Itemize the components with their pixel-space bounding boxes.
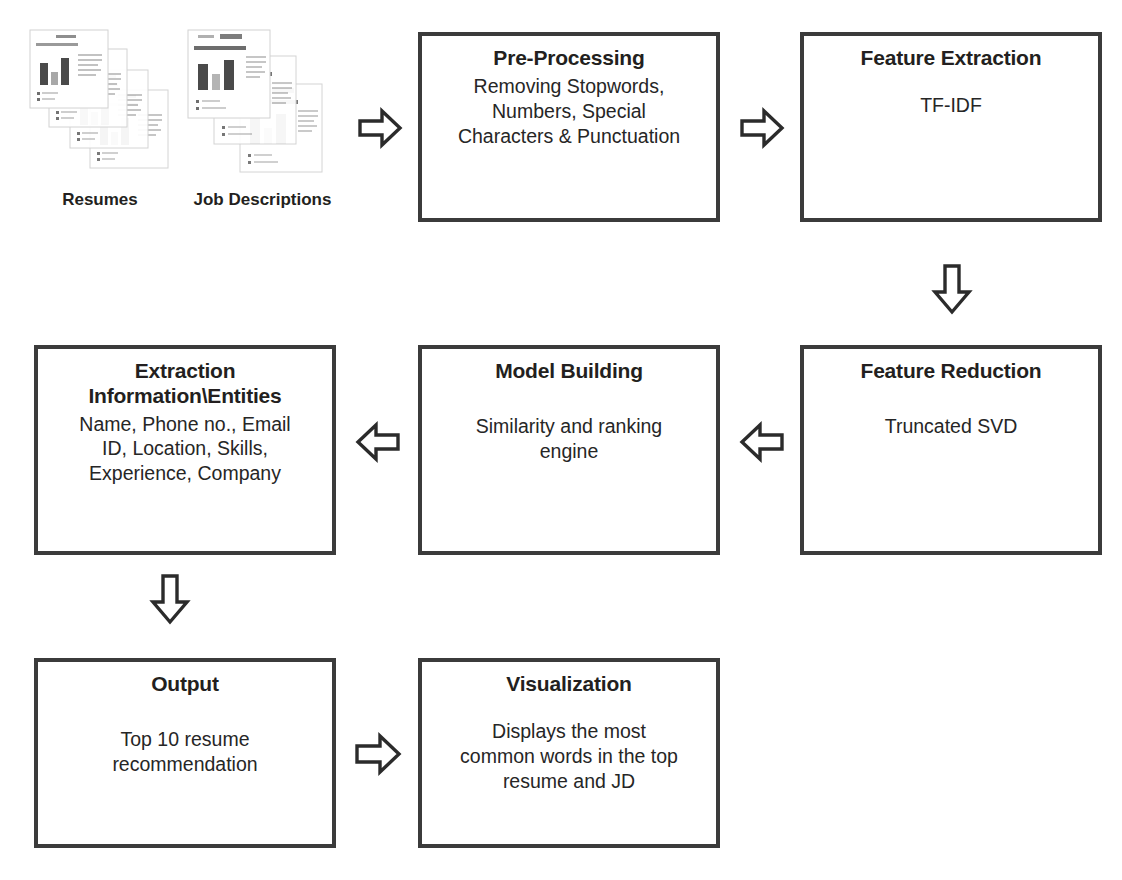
node-title: Visualization bbox=[506, 672, 631, 697]
node-output[interactable]: Output Top 10 resume recommendation bbox=[34, 658, 336, 848]
node-feature-extraction[interactable]: Feature Extraction TF-IDF bbox=[800, 32, 1102, 222]
node-body: Top 10 resume recommendation bbox=[112, 727, 257, 777]
node-body: Removing Stopwords, Numbers, Special Cha… bbox=[458, 74, 680, 149]
source-label-job-descriptions: Job Descriptions bbox=[180, 190, 345, 210]
arrow-right-icon-preprocessing-to-feature-extraction bbox=[738, 104, 786, 152]
document-stack-icon-job-descriptions bbox=[186, 28, 326, 178]
arrow-left-icon-feature-reduction-to-model-building bbox=[736, 418, 788, 466]
arrow-down-icon-extraction-to-output bbox=[146, 572, 194, 628]
node-pre-processing[interactable]: Pre-Processing Removing Stopwords, Numbe… bbox=[418, 32, 720, 222]
node-feature-reduction[interactable]: Feature Reduction Truncated SVD bbox=[800, 345, 1102, 555]
node-title: Output bbox=[151, 672, 219, 697]
node-model-building[interactable]: Model Building Similarity and ranking en… bbox=[418, 345, 720, 555]
document-stack-icon-resumes bbox=[28, 28, 178, 178]
node-body: Displays the most common words in the to… bbox=[460, 719, 678, 794]
arrow-down-icon-feature-extraction-to-feature-reduction bbox=[928, 262, 976, 318]
node-body: Name, Phone no., Email ID, Location, Ski… bbox=[79, 412, 290, 487]
arrow-right-icon-sources-to-preprocessing bbox=[356, 104, 404, 152]
node-body: Truncated SVD bbox=[885, 414, 1018, 439]
node-extraction-information-entities[interactable]: Extraction Information\Entities Name, Ph… bbox=[34, 345, 336, 555]
arrow-left-icon-model-building-to-extraction bbox=[352, 418, 404, 466]
node-body: TF-IDF bbox=[920, 93, 982, 118]
node-body: Similarity and ranking engine bbox=[476, 414, 662, 464]
node-title: Pre-Processing bbox=[493, 46, 644, 71]
source-label-resumes: Resumes bbox=[30, 190, 170, 210]
arrow-right-icon-output-to-visualization bbox=[352, 728, 404, 780]
node-title: Feature Reduction bbox=[861, 359, 1042, 384]
flowchart-canvas: Resumes Job Descriptions Pre-Processing … bbox=[0, 0, 1122, 880]
node-visualization[interactable]: Visualization Displays the most common w… bbox=[418, 658, 720, 848]
node-title: Model Building bbox=[495, 359, 643, 384]
node-title: Extraction Information\Entities bbox=[88, 359, 281, 409]
node-title: Feature Extraction bbox=[861, 46, 1042, 71]
